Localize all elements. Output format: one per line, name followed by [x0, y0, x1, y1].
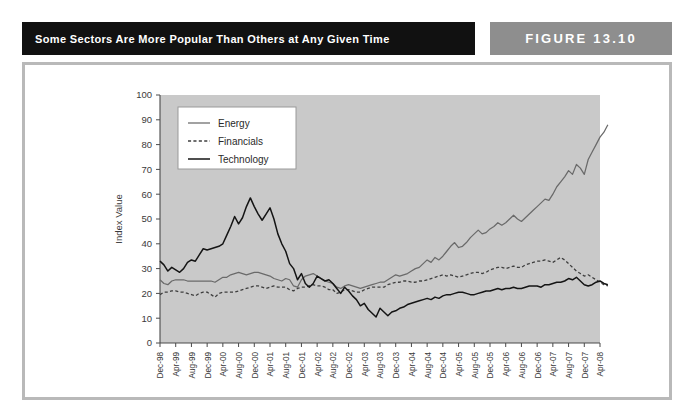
x-axis-tick-label: Apr-07 [549, 352, 558, 377]
figure-title: Some Sectors Are More Popular Than Other… [22, 33, 390, 45]
x-axis-tick-label: Aug-07 [565, 352, 574, 379]
x-axis-tick-label: Aug-01 [282, 352, 291, 379]
x-axis-tick-label: Aug-06 [518, 352, 527, 379]
x-axis-tick-label: Apr-08 [596, 352, 605, 377]
y-axis-tick-label: 40 [141, 238, 152, 249]
x-axis-tick-label: Apr-06 [502, 352, 511, 377]
figure-frame: 0102030405060708090100Index ValueDec-98A… [22, 62, 672, 400]
figure-page: Some Sectors Are More Popular Than Other… [0, 0, 691, 412]
y-axis-tick-label: 20 [141, 288, 152, 299]
chart-container: 0102030405060708090100Index ValueDec-98A… [25, 65, 675, 403]
y-axis-tick-label: 50 [141, 213, 152, 224]
figure-title-bar: Some Sectors Are More Popular Than Other… [22, 22, 475, 55]
x-axis-tick-label: Apr-00 [219, 352, 228, 377]
x-axis-tick-label: Dec-03 [392, 352, 401, 379]
x-axis-tick-label: Dec-98 [156, 352, 165, 379]
y-axis-title: Index Value [113, 194, 124, 243]
x-axis-tick-label: Aug-03 [376, 352, 385, 379]
x-axis-tick-label: Apr-02 [314, 352, 323, 377]
y-axis-tick-label: 70 [141, 164, 152, 175]
x-axis-tick-label: Apr-04 [408, 352, 417, 377]
y-axis-tick-label: 0 [147, 337, 152, 348]
x-axis-tick-label: Apr-03 [361, 352, 370, 377]
x-axis-tick-label: Apr-05 [455, 352, 464, 377]
x-axis-tick-label: Aug-04 [424, 352, 433, 379]
line-chart: 0102030405060708090100Index ValueDec-98A… [25, 65, 675, 403]
y-axis-tick-label: 90 [141, 114, 152, 125]
x-axis-tick-label: Apr-99 [172, 352, 181, 377]
figure-number-label: FIGURE 13.10 [525, 31, 637, 46]
x-axis-tick-label: Dec-04 [439, 352, 448, 379]
x-axis-tick-label: Aug-00 [235, 352, 244, 379]
y-axis-tick-label: 30 [141, 263, 152, 274]
y-axis-tick-label: 80 [141, 139, 152, 150]
x-axis-tick-label: Apr-01 [266, 352, 275, 377]
y-axis-tick-label: 10 [141, 313, 152, 324]
x-axis-tick-label: Dec-05 [486, 352, 495, 379]
y-axis-tick-label: 60 [141, 189, 152, 200]
x-axis-tick-label: Dec-06 [534, 352, 543, 379]
x-axis-tick-label: Dec-00 [251, 352, 260, 379]
figure-number-tab: FIGURE 13.10 [490, 22, 672, 55]
y-axis-tick-label: 100 [136, 89, 152, 100]
legend-label-technology: Technology [218, 154, 269, 165]
x-axis-tick-label: Dec-99 [204, 352, 213, 379]
x-axis-tick-label: Aug-05 [471, 352, 480, 379]
x-axis-tick-label: Dec-07 [581, 352, 590, 379]
x-axis-tick-label: Dec-02 [345, 352, 354, 379]
x-axis-tick-label: Aug-99 [188, 352, 197, 379]
x-axis-tick-label: Aug-02 [329, 352, 338, 379]
x-axis-tick-label: Dec-01 [298, 352, 307, 379]
legend-label-energy: Energy [218, 118, 250, 129]
legend-label-financials: Financials [218, 136, 263, 147]
